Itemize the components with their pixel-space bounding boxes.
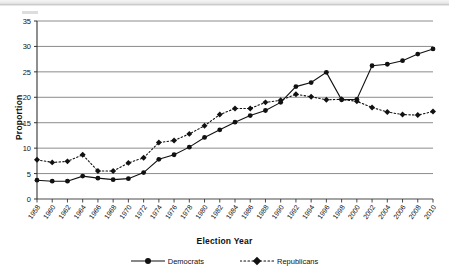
data-point-republicans <box>262 99 268 105</box>
data-point-republicans <box>202 123 208 129</box>
data-point-democrats <box>370 63 375 68</box>
x-tick-label: 1990 <box>270 203 285 220</box>
legend-swatch-republicans-icon <box>240 256 274 266</box>
legend-label-democrats: Democrats <box>168 257 204 266</box>
x-tick-label: 2004 <box>377 203 392 220</box>
x-tick-label: 1996 <box>316 203 331 220</box>
data-point-democrats <box>309 80 314 85</box>
data-point-democrats <box>263 108 268 113</box>
legend-swatch-democrats-icon <box>131 256 165 266</box>
y-tick-label: 5 <box>27 170 31 179</box>
data-point-republicans <box>186 131 192 137</box>
chart-legend: Democrats Republicans <box>0 256 449 266</box>
data-point-democrats <box>50 179 55 184</box>
x-tick-label: 1978 <box>179 203 194 220</box>
x-tick-label: 1994 <box>301 203 316 220</box>
data-point-democrats <box>217 127 222 132</box>
x-tick-label: 1964 <box>72 203 87 220</box>
data-point-republicans <box>80 152 86 158</box>
data-point-democrats <box>111 177 116 182</box>
data-point-republicans <box>64 158 70 164</box>
x-tick-label: 1976 <box>164 203 179 220</box>
data-point-democrats <box>187 145 192 150</box>
data-point-democrats <box>126 176 131 181</box>
data-point-democrats <box>141 170 146 175</box>
x-tick-label: 1980 <box>194 203 209 220</box>
x-tick-label: 1958 <box>27 203 42 220</box>
data-point-democrats <box>400 58 405 63</box>
data-point-republicans <box>415 112 421 118</box>
legend-item-democrats: Democrats <box>131 256 204 266</box>
data-point-republicans <box>400 112 406 118</box>
chart-figure: 0510152025303519581960196219641966196819… <box>0 0 449 278</box>
data-point-democrats <box>248 113 253 118</box>
x-tick-label: 2000 <box>346 203 361 220</box>
y-tick-label: 10 <box>23 144 31 153</box>
data-point-democrats <box>324 70 329 75</box>
data-point-republicans <box>308 94 314 100</box>
x-tick-label: 1986 <box>240 203 255 220</box>
data-point-republicans <box>34 157 40 163</box>
data-point-republicans <box>293 91 299 97</box>
x-tick-label: 2010 <box>423 203 438 220</box>
data-point-democrats <box>156 157 161 162</box>
y-axis-title: Proportion <box>14 95 24 140</box>
data-point-democrats <box>233 120 238 125</box>
x-tick-label: 1982 <box>209 203 224 220</box>
x-tick-label: 1962 <box>57 203 72 220</box>
y-tick-label: 0 <box>27 195 31 204</box>
x-tick-label: 1992 <box>286 203 301 220</box>
x-tick-label: 2008 <box>407 203 422 220</box>
legend-item-republicans: Republicans <box>240 256 318 266</box>
y-tick-label: 30 <box>23 42 31 51</box>
legend-label-republicans: Republicans <box>277 257 318 266</box>
x-tick-label: 1972 <box>133 203 148 220</box>
x-tick-label: 1970 <box>118 203 133 220</box>
data-point-democrats <box>96 176 101 181</box>
data-point-democrats <box>172 152 177 157</box>
x-tick-label: 1984 <box>225 203 240 220</box>
data-point-republicans <box>125 160 131 166</box>
data-point-republicans <box>141 155 147 161</box>
x-tick-label: 1988 <box>255 203 270 220</box>
data-point-republicans <box>49 159 55 165</box>
data-point-democrats <box>294 84 299 89</box>
data-point-republicans <box>369 104 375 110</box>
data-point-democrats <box>431 47 436 52</box>
data-point-republicans <box>247 106 253 112</box>
x-tick-label: 2002 <box>362 203 377 220</box>
data-point-democrats <box>65 179 70 184</box>
data-point-republicans <box>384 109 390 115</box>
x-tick-label: 1966 <box>88 203 103 220</box>
data-point-democrats <box>202 135 207 140</box>
data-point-democrats <box>385 62 390 67</box>
x-axis-title: Election Year <box>0 236 449 246</box>
x-tick-label: 2006 <box>392 203 407 220</box>
data-point-republicans <box>232 106 238 112</box>
data-point-democrats <box>80 174 85 179</box>
y-tick-label: 25 <box>23 68 31 77</box>
x-tick-label: 1960 <box>42 203 57 220</box>
y-tick-label: 35 <box>23 17 31 26</box>
data-point-democrats <box>35 178 40 183</box>
data-point-democrats <box>415 52 420 57</box>
x-tick-label: 1968 <box>103 203 118 220</box>
data-point-republicans <box>430 109 436 115</box>
x-tick-label: 1974 <box>148 203 163 220</box>
series-line-democrats <box>37 49 433 181</box>
data-point-republicans <box>171 138 177 144</box>
x-tick-label: 1998 <box>331 203 346 220</box>
